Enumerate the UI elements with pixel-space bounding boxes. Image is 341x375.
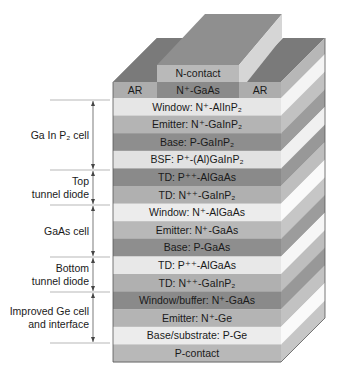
layer-label: Emitter: N⁺-GaAs xyxy=(156,224,238,236)
arrow-up-icon xyxy=(91,293,95,298)
layer-label: TD: N⁺⁺-GaInP₂ xyxy=(159,189,236,201)
arrow-up-icon xyxy=(91,206,95,211)
arrow-up-icon xyxy=(91,171,95,176)
group-label: GaAs cell xyxy=(44,225,89,237)
ar-right-label: AR xyxy=(253,84,268,96)
group-label: Improved Ge cell xyxy=(10,305,89,317)
solar-cell-diagram: Window: N⁺-AlInP₂Emitter: N⁺-GaInP₂Base:… xyxy=(0,0,341,375)
group-label: tunnel diode xyxy=(32,188,89,200)
arrow-up-icon xyxy=(91,258,95,263)
cap-row: AR N⁺-GaAs AR xyxy=(113,82,281,98)
arrow-down-icon xyxy=(91,199,95,204)
front-face-layers: Window: N⁺-AlInP₂Emitter: N⁺-GaInP₂Base:… xyxy=(113,98,281,362)
layer-label: Window: N⁺-AlInP₂ xyxy=(152,101,241,113)
layer-label: Base/substrate: P-Ge xyxy=(147,329,248,341)
arrow-down-icon xyxy=(91,337,95,342)
group-label: Bottom xyxy=(56,262,90,274)
layer-label: TD: P⁺⁺-AlGaAs xyxy=(158,259,236,271)
cell-group-annotations: Ga In P₂ cellToptunnel diodeGaAs cellBot… xyxy=(10,100,110,343)
group-label: and interface xyxy=(28,318,89,330)
layer-label: BSF: P⁺-(Al)GaInP₂ xyxy=(151,153,244,165)
ar-left-label: AR xyxy=(128,84,143,96)
arrow-down-icon xyxy=(91,251,95,256)
layer-label: Base: P-GaAs xyxy=(164,241,231,253)
n-gaas-cap-label: N⁺-GaAs xyxy=(176,84,219,96)
arrow-down-icon xyxy=(91,164,95,169)
group-label: Ga In P₂ cell xyxy=(31,129,89,141)
layer-label: Base: P-GaInP₂ xyxy=(160,136,234,148)
n-contact-label: N-contact xyxy=(176,67,221,79)
layer-label: TD: P⁺⁺-AlGaAs xyxy=(158,171,236,183)
arrow-up-icon xyxy=(91,101,95,106)
side-face-layers xyxy=(281,54,325,362)
layer-label: P-contact xyxy=(175,347,219,359)
layer-label: Window/buffer: N⁺-GaAs xyxy=(139,294,255,306)
layer-label: Emitter: N⁺-Ge xyxy=(162,312,232,324)
layer-label: Emitter: N⁺-GaInP₂ xyxy=(152,118,242,130)
arrow-down-icon xyxy=(91,286,95,291)
layer-label: TD: N⁺⁺-GaInP₂ xyxy=(159,277,236,289)
group-label: tunnel diode xyxy=(32,275,89,287)
layer-label: Window: N⁺-AlGaAs xyxy=(149,206,245,218)
group-label: Top xyxy=(72,175,89,187)
